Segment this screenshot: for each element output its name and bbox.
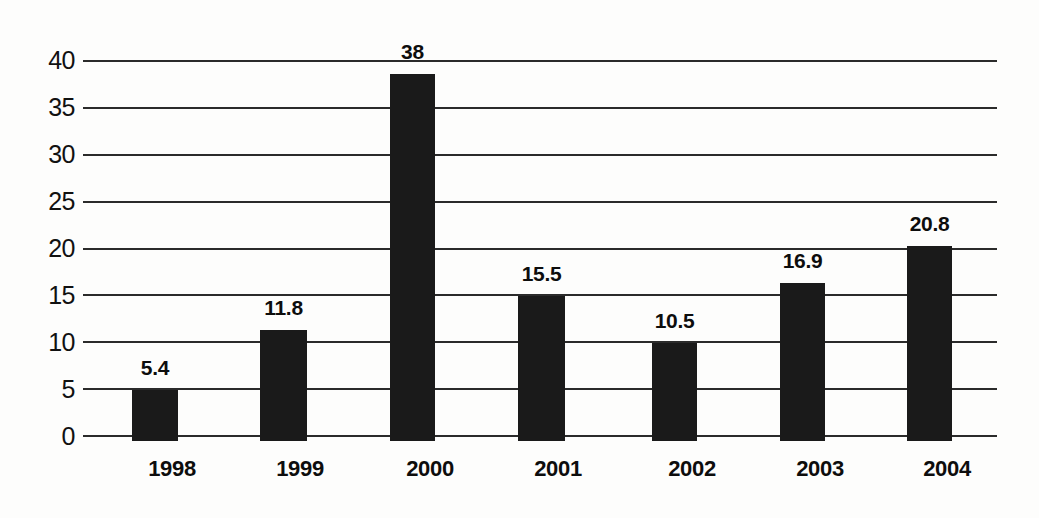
bar-group[interactable]: 16.9 [780,60,825,435]
bar[interactable] [780,283,825,441]
bar-value-label: 20.8 [910,213,950,234]
y-axis: 40 35 30 25 20 15 10 5 0 [12,60,75,435]
y-tick-label: 0 [15,424,75,449]
plot-area: 5.4 11.8 38 15.5 10.5 16.9 20.8 [83,60,997,435]
y-tick-label: 15 [15,283,75,308]
bar-group[interactable]: 5.4 [132,60,178,435]
y-tick-label: 35 [15,95,75,120]
bar-value-label: 11.8 [264,297,303,318]
bar-value-label: 16.9 [783,250,823,271]
x-tick-label-2004: 2004 [867,458,1027,480]
bar-group[interactable]: 10.5 [652,60,697,435]
bar-chart: 40 35 30 25 20 15 10 5 0 5.4 11.8 38 [0,0,1039,518]
bar-value-label: 5.4 [141,357,169,378]
y-tick-label: 20 [15,236,75,261]
y-tick-label: 10 [15,330,75,355]
bar-group[interactable]: 11.8 [260,60,307,435]
bar-value-label: 10.5 [655,310,695,331]
y-tick-label: 30 [15,142,75,167]
bar-group[interactable]: 20.8 [907,60,952,435]
bar[interactable] [518,296,565,441]
bar[interactable] [132,390,178,441]
bar[interactable] [260,330,307,441]
bar-value-label: 15.5 [522,263,562,284]
bar[interactable] [390,74,435,442]
bar-group[interactable]: 15.5 [518,60,565,435]
bar[interactable] [652,343,697,441]
y-tick-label: 5 [15,377,75,402]
bar[interactable] [907,246,952,441]
y-tick-label: 40 [15,48,75,73]
y-tick-label: 25 [15,189,75,214]
bar-value-label: 38 [401,41,424,62]
bar-group[interactable]: 38 [390,60,435,435]
